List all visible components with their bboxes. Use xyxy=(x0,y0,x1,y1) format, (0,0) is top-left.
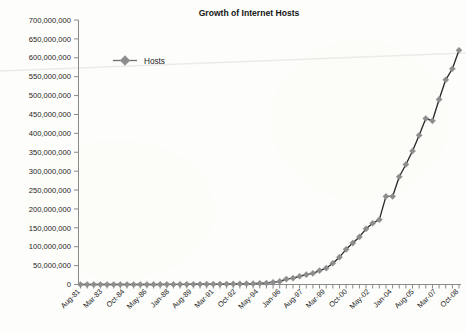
y-tick-label: 400,000,000 xyxy=(29,129,71,138)
chart-title: Growth of Internet Hosts xyxy=(199,8,300,18)
legend-label-hosts: Hosts xyxy=(144,57,165,66)
y-tick-label: 100,000,000 xyxy=(29,242,71,251)
y-tick-label: 200,000,000 xyxy=(29,205,71,214)
y-tick-label: 450,000,000 xyxy=(29,110,71,119)
y-tick-label: 600,000,000 xyxy=(29,53,71,62)
y-tick-label: 150,000,000 xyxy=(29,224,71,233)
y-tick-label: 650,000,000 xyxy=(29,35,71,44)
internet-hosts-line-chart: Growth of Internet Hosts 700,000,000650,… xyxy=(0,0,466,333)
y-tick-label: 0 xyxy=(67,280,71,289)
y-tick-label: 700,000,000 xyxy=(29,16,71,25)
y-tick-label: 250,000,000 xyxy=(29,186,71,195)
y-tick-label: 350,000,000 xyxy=(29,148,71,157)
y-tick-label: 500,000,000 xyxy=(29,91,71,100)
y-tick-label: 300,000,000 xyxy=(29,167,71,176)
y-tick-label: 550,000,000 xyxy=(29,72,71,81)
chart-container: Growth of Internet Hosts 700,000,000650,… xyxy=(0,0,466,333)
scan-tint-blotch xyxy=(270,40,450,200)
y-tick-label: 50,000,000 xyxy=(33,261,71,270)
